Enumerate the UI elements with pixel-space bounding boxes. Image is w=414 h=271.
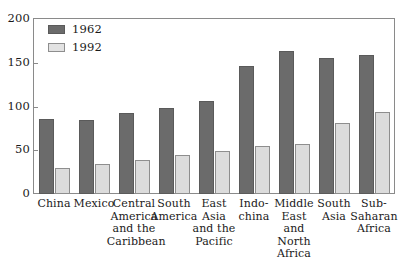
bar-1962: [159, 108, 174, 194]
y-tick-mark: [33, 150, 38, 151]
bar-1962: [119, 113, 134, 194]
y-tick-label: 50: [0, 144, 30, 156]
y-axis: 050100150200: [0, 0, 30, 271]
bar-1962: [359, 55, 374, 194]
legend-swatch-1992: [48, 43, 65, 52]
y-tick-mark: [33, 63, 38, 64]
bar-chart: 050100150200 1962 1992 ChinaMexicoCentra…: [0, 0, 414, 271]
bar-1992: [215, 151, 230, 194]
legend: 1962 1992: [48, 21, 128, 57]
legend-label-1992: 1992: [72, 41, 102, 53]
legend-label-1962: 1962: [72, 23, 102, 35]
bar-group: [154, 19, 194, 194]
legend-swatch-1962: [48, 25, 65, 34]
bar-1992: [175, 155, 190, 194]
legend-item-1962: 1962: [48, 21, 128, 37]
y-tick-label: 200: [0, 13, 30, 25]
bar-1992: [295, 144, 310, 194]
y-tick-label: 150: [0, 57, 30, 69]
bar-1992: [135, 160, 150, 194]
bar-1992: [55, 168, 70, 194]
y-tick-label: 100: [0, 101, 30, 113]
bar-group: [354, 19, 394, 194]
bar-1962: [39, 119, 54, 194]
bar-1962: [319, 58, 334, 194]
bar-1962: [199, 101, 214, 194]
bar-1992: [255, 146, 270, 194]
y-tick-mark: [33, 107, 38, 108]
y-tick-label: 0: [0, 188, 30, 200]
bar-group: [194, 19, 234, 194]
bar-1992: [335, 123, 350, 194]
bar-group: [274, 19, 314, 194]
bar-1962: [279, 51, 294, 194]
bar-1962: [239, 66, 254, 194]
bar-1992: [95, 164, 110, 194]
legend-item-1992: 1992: [48, 39, 128, 55]
bar-group: [234, 19, 274, 194]
bar-group: [314, 19, 354, 194]
x-axis-labels: ChinaMexicoCentral America and the Carib…: [34, 198, 394, 270]
x-axis-label: Sub- Saharan Africa: [347, 198, 401, 236]
bar-1992: [375, 112, 390, 194]
bar-1962: [79, 120, 94, 194]
